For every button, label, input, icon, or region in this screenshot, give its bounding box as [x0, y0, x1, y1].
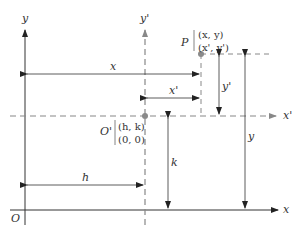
x-measurement: x — [27, 60, 199, 74]
x-measurement-label: x — [110, 60, 117, 73]
origin-label: O — [11, 212, 20, 225]
point-p: P (x, y) (x', y') — [180, 29, 229, 57]
h-measurement: h — [27, 171, 143, 185]
k-measurement: k — [168, 118, 178, 208]
y-prime-axis-label: y' — [139, 12, 149, 25]
x-prime-axis: x' — [10, 109, 292, 122]
h-measurement-label: h — [82, 171, 89, 184]
y-prime-measurement: y' — [219, 56, 231, 114]
y-axis: y — [21, 12, 29, 225]
point-o-prime-coords-translated: (0, 0) — [118, 134, 145, 145]
x-prime-measurement-label: x' — [169, 84, 178, 97]
point-o-prime: O' (h, k) (0, 0) — [100, 113, 148, 145]
coordinate-translation-diagram: y x O y' x' P (x, y) (x', y') O' (h, k) … — [0, 0, 298, 227]
x-prime-axis-label: x' — [283, 109, 292, 122]
point-o-prime-coords-original: (h, k) — [118, 121, 145, 132]
y-measurement: y — [245, 56, 255, 208]
k-measurement-label: k — [171, 156, 178, 169]
y-measurement-label: y — [247, 130, 255, 143]
x-axis-label: x — [283, 203, 290, 216]
x-axis: x — [10, 203, 290, 216]
point-o-prime-label: O' — [100, 125, 112, 138]
point-p-label: P — [180, 36, 189, 49]
point-p-coords-translated: (x', y') — [198, 42, 229, 53]
x-prime-measurement: x' — [147, 84, 199, 98]
y-prime-measurement-label: y' — [221, 80, 231, 93]
y-axis-label: y — [21, 12, 29, 25]
point-p-coords-original: (x, y) — [198, 29, 224, 40]
